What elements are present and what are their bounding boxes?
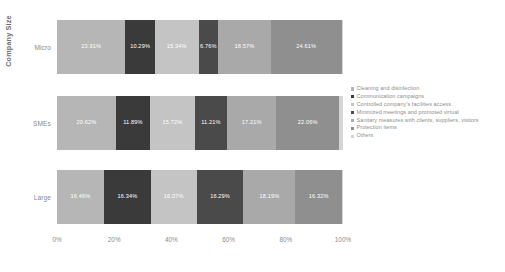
legend-item-label: Communication campaigns	[357, 94, 425, 100]
x-axis-tick-label: 100%	[335, 236, 351, 243]
bar-segment[interactable]: 18.57%	[218, 20, 271, 74]
legend-item-label: Controlled company's facilities access	[357, 102, 451, 108]
legend-swatch-icon	[351, 127, 354, 130]
legend-item-label: Protection items	[357, 125, 397, 131]
legend-item[interactable]: Sanitary measures with clients, supplier…	[351, 118, 503, 124]
bar-segment-value-label: 18.19%	[259, 194, 279, 200]
legend-swatch-icon	[351, 111, 354, 114]
legend-item-label: Sanitary measures with clients, supplier…	[357, 118, 479, 124]
bar-segment[interactable]: 18.19%	[243, 170, 295, 224]
bar-segment[interactable]: 16.29%	[197, 170, 244, 224]
bar-segment-value-label: 15.34%	[167, 44, 187, 50]
bar-segment[interactable]: 20.62%	[57, 96, 116, 150]
bar-segment-value-label: 15.72%	[163, 120, 183, 126]
bar-segment-value-label: 10.29%	[130, 44, 150, 50]
legend-item-label: Others	[357, 133, 374, 139]
x-axis-tick-label: 0%	[52, 236, 61, 243]
bar-segment[interactable]: 15.72%	[150, 96, 195, 150]
category-label-smes: SMEs	[33, 120, 51, 127]
legend-swatch-icon	[351, 119, 354, 122]
bar-segment-value-label: 16.34%	[118, 194, 138, 200]
legend-swatch-icon	[351, 135, 354, 138]
legend-item[interactable]: Minimized meetings and promoted virtual	[351, 110, 503, 116]
legend-item[interactable]: Cleaning and disinfection	[351, 86, 503, 92]
bar-segment[interactable]: 11.89%	[116, 96, 150, 150]
bar-segment[interactable]: 11.21%	[195, 96, 227, 150]
legend-item[interactable]: Protection items	[351, 125, 503, 131]
bar-segment[interactable]: 16.07%	[151, 170, 197, 224]
bar-segment[interactable]	[339, 96, 343, 150]
bar-segment[interactable]: 24.61%	[271, 20, 341, 74]
bar-segment-value-label: 17.21%	[242, 120, 262, 126]
bar-segment-value-label: 20.62%	[77, 120, 97, 126]
x-axis-tick-label: 40%	[165, 236, 178, 243]
category-label-micro: Micro	[34, 44, 51, 51]
legend-item[interactable]: Communication campaigns	[351, 94, 503, 100]
bar-segment[interactable]: 10.29%	[125, 20, 154, 74]
bar-segment[interactable]: 16.34%	[104, 170, 151, 224]
legend-swatch-icon	[351, 87, 354, 90]
bar-segment[interactable]	[342, 170, 343, 224]
bar-segment-value-label: 6.76%	[200, 44, 217, 50]
legend-swatch-icon	[351, 103, 354, 106]
bar-segment-value-label: 18.57%	[235, 44, 255, 50]
legend-item-label: Cleaning and disinfection	[357, 86, 420, 92]
legend-swatch-icon	[351, 95, 354, 98]
chart-legend: Cleaning and disinfectionCommunication c…	[351, 86, 503, 141]
bar-segment-value-label: 16.29%	[210, 194, 230, 200]
bar-segment[interactable]: 6.76%	[199, 20, 218, 74]
bar-segment[interactable]	[342, 20, 343, 74]
bar-segment-value-label: 23.91%	[81, 44, 101, 50]
legend-item-label: Minimized meetings and promoted virtual	[357, 110, 459, 116]
y-axis-title: Company Size	[4, 0, 13, 86]
bar-segment-value-label: 11.21%	[201, 120, 220, 126]
legend-item[interactable]: Controlled company's facilities access	[351, 102, 503, 108]
bar-segment[interactable]: 17.21%	[227, 96, 276, 150]
bar-segment-value-label: 11.89%	[123, 120, 142, 126]
bar-row: Micro 23.91%10.29%15.34%6.76%18.57%24.61…	[57, 20, 343, 74]
bar-row: SMEs 20.62%11.89%15.72%11.21%17.21%22.06…	[57, 96, 343, 150]
bar-segment[interactable]: 16.32%	[295, 170, 342, 224]
bar-segment-value-label: 22.06%	[298, 120, 318, 126]
plot-area: Micro 23.91%10.29%15.34%6.76%18.57%24.61…	[57, 18, 343, 232]
bar-segment-value-label: 16.32%	[309, 194, 329, 200]
x-axis-tick-label: 20%	[108, 236, 121, 243]
bar-segment[interactable]: 16.46%	[57, 170, 104, 224]
bar-segment-value-label: 16.46%	[71, 194, 91, 200]
bar-segment[interactable]: 22.06%	[276, 96, 339, 150]
bar-row: Large 16.46%16.34%16.07%16.29%18.19%16.3…	[57, 170, 343, 224]
bar-segment-value-label: 16.07%	[164, 194, 184, 200]
category-label-large: Large	[34, 194, 51, 201]
bar-segment[interactable]: 15.34%	[155, 20, 199, 74]
legend-item[interactable]: Others	[351, 133, 503, 139]
x-axis: 0%20%40%60%80%100%	[57, 236, 343, 250]
stacked-bar-chart: Company Size Micro 23.91%10.29%15.34%6.7…	[0, 0, 505, 272]
bar-segment[interactable]: 23.91%	[57, 20, 125, 74]
bar-segment-value-label: 24.61%	[296, 44, 316, 50]
x-axis-tick-label: 80%	[279, 236, 292, 243]
x-axis-tick-label: 60%	[222, 236, 235, 243]
